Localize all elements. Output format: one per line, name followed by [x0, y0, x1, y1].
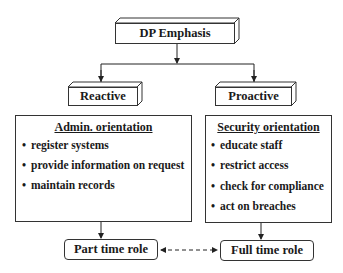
branch-label: Proactive: [228, 89, 278, 104]
bullet-icon: •: [22, 139, 31, 151]
list-item: •maintain records: [22, 179, 115, 191]
root-node-dp-emphasis: DP Emphasis: [115, 23, 235, 44]
list-item: •provide information on request: [22, 159, 184, 171]
role-label: Part time role: [74, 242, 148, 257]
bullet-icon: •: [211, 200, 220, 212]
panel-admin-orientation: Admin. orientation •register systems •pr…: [15, 115, 192, 222]
role-node-part-time: Part time role: [64, 239, 158, 260]
panel-title: Admin. orientation: [16, 120, 191, 135]
panel-title: Security orientation: [206, 120, 331, 135]
bullet-icon: •: [211, 139, 220, 151]
bullet-icon: •: [211, 159, 220, 171]
branch-label: Reactive: [80, 89, 126, 104]
list-item: •check for compliance: [211, 180, 324, 192]
role-label: Full time role: [231, 243, 303, 258]
bullet-icon: •: [22, 159, 31, 171]
list-item: •educate staff: [211, 139, 282, 151]
branch-node-proactive: Proactive: [215, 87, 292, 106]
list-item: •restrict access: [211, 159, 288, 171]
list-item: •register systems: [22, 139, 109, 151]
branch-node-reactive: Reactive: [68, 87, 138, 106]
list-item: •act on breaches: [211, 200, 296, 212]
panel-security-orientation: Security orientation •educate staff •res…: [205, 115, 332, 223]
root-node-label: DP Emphasis: [139, 26, 210, 41]
bullet-icon: •: [211, 180, 220, 192]
role-node-full-time: Full time role: [220, 240, 314, 261]
bullet-icon: •: [22, 179, 31, 191]
